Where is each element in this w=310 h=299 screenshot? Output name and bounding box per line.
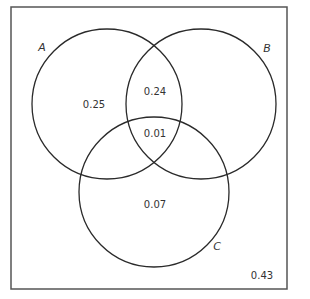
region-outside-value: 0.43 (251, 270, 273, 281)
venn-diagram: A B C 0.25 0.24 0.01 0.07 0.43 (0, 0, 310, 299)
set-b-label: B (263, 42, 271, 55)
region-a-only-value: 0.25 (83, 99, 105, 110)
set-c-label: C (213, 240, 221, 253)
set-b-circle (126, 29, 276, 179)
set-a-circle (32, 29, 182, 179)
region-a-and-b-value: 0.24 (144, 86, 166, 97)
region-c-only-value: 0.07 (144, 199, 166, 210)
set-c-circle (79, 117, 229, 267)
region-a-b-c-value: 0.01 (144, 128, 166, 139)
set-a-label: A (37, 41, 46, 54)
